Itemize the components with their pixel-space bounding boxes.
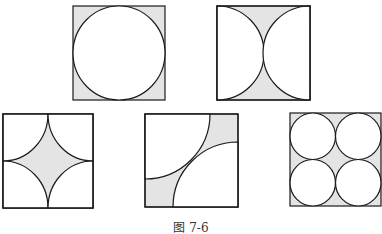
- panel-a-inscribed-circle: [73, 6, 165, 100]
- panel-c-four-quarter-circles: [3, 114, 93, 208]
- figure-caption: 图 7-6: [0, 218, 382, 234]
- panel-b-two-semicircles: [217, 6, 310, 100]
- panel-e-four-circles: [290, 113, 381, 206]
- panel-d-two-quarter-circles: [145, 114, 238, 207]
- figure-canvas: [0, 0, 382, 234]
